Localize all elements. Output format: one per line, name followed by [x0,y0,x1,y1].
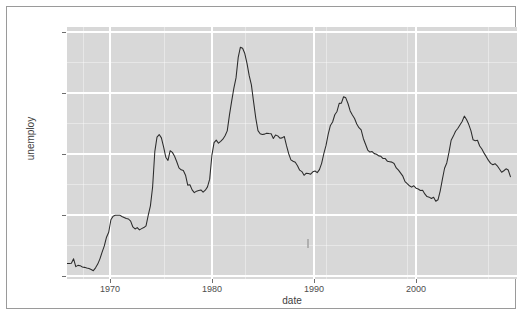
x-tick-mark-1980 [212,279,213,283]
chart-figure: 12500 10000 7500 5000 2500 [0,0,524,317]
y-tick-mark-5000 [62,215,66,216]
plot-panel [67,27,517,279]
series-line-unemploy [67,47,510,270]
x-tick-label-1980: 1980 [182,284,242,294]
x-tick-mark-1990 [314,279,315,283]
x-axis-title: date [67,295,517,306]
unemploy-series [67,27,517,279]
y-tick-mark-7500 [62,154,66,155]
x-tick-label-1970: 1970 [80,284,140,294]
x-tick-label-1990: 1990 [284,284,344,294]
figure-frame: 12500 10000 7500 5000 2500 [6,6,516,309]
y-axis-title: unemploy [25,69,36,209]
x-tick-label-2000: 2000 [386,284,446,294]
y-tick-mark-10000 [62,93,66,94]
x-tick-mark-2000 [416,279,417,283]
y-tick-mark-12500 [62,32,66,33]
x-tick-mark-1970 [110,279,111,283]
y-tick-mark-2500 [62,276,66,277]
image-artifact-speckle [307,239,309,248]
